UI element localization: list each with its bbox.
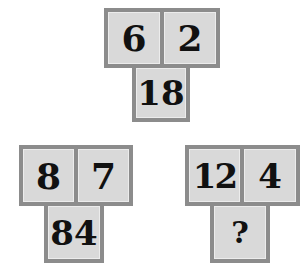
bottom-box: 84	[44, 202, 104, 263]
top-row: 12 4	[185, 145, 300, 206]
number-cell: 8	[23, 149, 74, 202]
top-row: 8 7	[19, 145, 133, 206]
bottom-box: 18	[132, 64, 190, 122]
number-cell: 2	[164, 12, 216, 64]
number-cell: 7	[78, 149, 129, 202]
number-cell: 6	[108, 12, 160, 64]
result-cell: 84	[48, 206, 100, 259]
number-cell: 4	[244, 149, 296, 202]
result-cell: 18	[136, 68, 186, 118]
unknown-cell: ?	[214, 206, 266, 259]
top-row: 6 2	[104, 8, 220, 68]
number-cell: 12	[189, 149, 240, 202]
bottom-box: ?	[210, 202, 270, 263]
